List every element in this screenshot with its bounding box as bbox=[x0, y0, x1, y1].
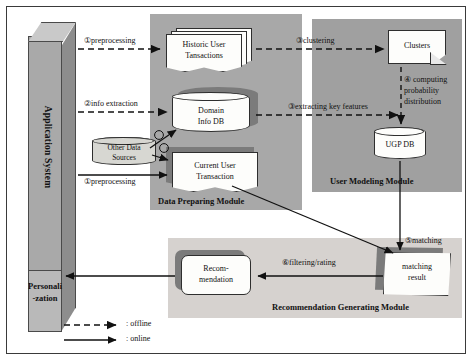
rec-line-1: Recom- bbox=[203, 264, 228, 273]
domain-line-2: Info DB bbox=[198, 117, 224, 126]
module-label-user-modeling: User Modeling Module bbox=[330, 176, 413, 186]
matching-line-1: matching bbox=[402, 262, 432, 271]
legend-row-offline: : offline bbox=[62, 318, 232, 333]
domain-line-1: Domain bbox=[198, 106, 224, 115]
other-line-1: Other Data bbox=[107, 143, 140, 152]
node-domain-info-db: Domain Info DB bbox=[172, 92, 252, 134]
node-label-matching-result: matching result bbox=[383, 261, 451, 283]
node-label-historic-user-transactions: Historic User Tansactions bbox=[166, 39, 242, 61]
legend-row-online: : online bbox=[62, 333, 232, 348]
edge-label-clustering-3: ③clustering bbox=[296, 36, 335, 45]
legend-label-offline: : offline bbox=[126, 319, 151, 328]
cylinder-top-ellipse bbox=[374, 127, 424, 136]
legend: : offline : online bbox=[62, 318, 232, 348]
node-matching-result: matching result bbox=[383, 252, 455, 298]
node-ugp-db: UGP DB bbox=[374, 127, 428, 161]
node-clusters: Clusters bbox=[388, 30, 448, 66]
module-label-recommendation-generating: Recommendation Generating Module bbox=[272, 302, 409, 312]
personalization-line-1: Personali bbox=[28, 281, 62, 291]
edge-label-filtering-rating-6: ⑥filtering/rating bbox=[282, 258, 336, 267]
node-current-user-transaction: Current User Transaction bbox=[172, 152, 260, 192]
node-label-recommendation: Recom- mendation bbox=[181, 263, 251, 285]
other-line-2: Sources bbox=[112, 153, 136, 162]
node-other-data-sources: Other Data Sources bbox=[92, 137, 158, 167]
edge-label-matching-5: ⑤matching bbox=[405, 236, 442, 245]
legend-label-online: : online bbox=[126, 334, 150, 343]
node-historic-user-transactions: Historic User Tansactions bbox=[166, 28, 252, 70]
personalization-line-2: -zation bbox=[32, 293, 57, 303]
application-system-bar: Application System Personali -zation bbox=[28, 22, 76, 332]
current-line-1: Current User bbox=[194, 161, 236, 170]
matching-line-2: result bbox=[408, 273, 426, 282]
personalization-label: Personali -zation bbox=[22, 280, 68, 304]
application-system-label: Application System bbox=[43, 57, 53, 237]
edge-label-preprocessing-1b: ①preprocessing bbox=[84, 177, 135, 186]
module-label-data-preparing: Data Preparing Module bbox=[158, 196, 244, 206]
current-line-2: Transaction bbox=[196, 172, 233, 181]
historic-line-2: Tansactions bbox=[185, 51, 223, 60]
edge-label-extracting-key-features: ③extracting key features bbox=[288, 102, 368, 111]
node-label-clusters: Clusters bbox=[388, 40, 446, 51]
node-label-other-data-sources: Other Data Sources bbox=[92, 143, 156, 163]
edge-label-info-extraction-2: ②info extraction bbox=[84, 99, 138, 108]
edge-label-preprocessing-1: ①preprocessing bbox=[84, 36, 135, 45]
node-recommendation: Recom- mendation bbox=[181, 255, 253, 297]
cylinder-top-ellipse bbox=[172, 92, 248, 101]
node-label-domain-info-db: Domain Info DB bbox=[172, 105, 250, 127]
rec-line-2: mendation bbox=[199, 275, 233, 284]
edge-label-computing-probability: ④ computing probability distribution bbox=[404, 74, 470, 107]
node-label-ugp-db: UGP DB bbox=[374, 139, 426, 150]
node-label-current-user-transaction: Current User Transaction bbox=[172, 160, 258, 182]
historic-line-1: Historic User bbox=[183, 40, 226, 49]
diagram-canvas: Data Preparing Module User Modeling Modu… bbox=[0, 0, 474, 361]
